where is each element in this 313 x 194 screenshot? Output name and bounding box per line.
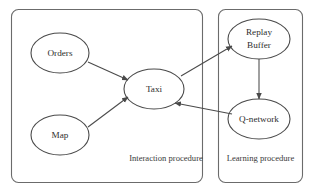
- node-replay-buffer[interactable]: Replay Buffer: [228, 19, 290, 59]
- node-replay-buffer-label-line1: Replay: [246, 27, 272, 37]
- panel-interaction-procedure: Interaction procedure: [12, 10, 204, 183]
- node-q-network-label: Q-network: [239, 114, 279, 124]
- edge-q-network-to-taxi: [175, 103, 232, 114]
- edge-orders-to-taxi: [88, 62, 128, 80]
- node-q-network[interactable]: Q-network: [228, 99, 290, 139]
- edge-group: [88, 46, 259, 127]
- node-map-label: Map: [52, 130, 69, 140]
- node-replay-buffer-ellipse[interactable]: [228, 19, 290, 59]
- node-replay-buffer-label-line2: Buffer: [247, 40, 271, 50]
- edge-taxi-to-replay-buffer: [181, 46, 232, 76]
- diagram-canvas: Interaction procedure Learning procedure…: [0, 0, 313, 194]
- node-orders-label: Orders: [47, 48, 72, 58]
- node-taxi-label: Taxi: [146, 84, 163, 94]
- panel-interaction-label: Interaction procedure: [129, 153, 203, 163]
- node-map[interactable]: Map: [31, 115, 89, 155]
- edge-map-to-taxi: [88, 97, 128, 127]
- node-orders[interactable]: Orders: [31, 33, 89, 73]
- panel-learning-label: Learning procedure: [227, 153, 295, 163]
- diagram-svg: Interaction procedure Learning procedure…: [0, 0, 313, 194]
- node-taxi[interactable]: Taxi: [124, 69, 184, 109]
